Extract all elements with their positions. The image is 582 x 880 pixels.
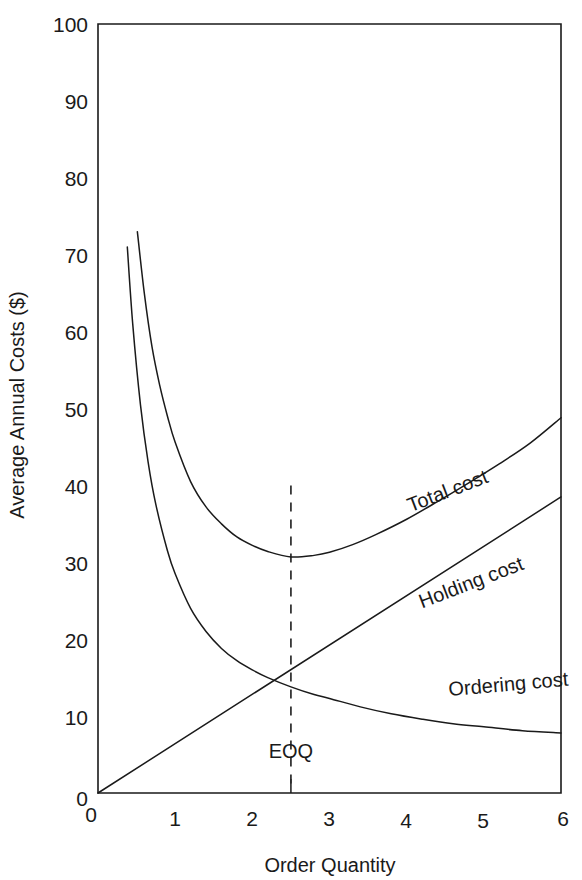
eoq-annotation-label: EOQ: [269, 740, 313, 762]
x-axis-title: Order Quantity: [264, 854, 395, 876]
series-label-holding-cost: Holding cost: [416, 552, 527, 612]
chart-canvas: 100 90 80 70 60 50 40 30 20 10 0 0 1 2 3…: [0, 0, 582, 880]
y-tick-label: 90: [65, 90, 88, 113]
series-ordering-cost-curve: [127, 247, 561, 733]
x-tick-label: 4: [400, 809, 412, 832]
series-label-total-cost: Total cost: [404, 465, 491, 516]
y-tick-label: 50: [65, 398, 88, 421]
y-axis-tick-labels: 100 90 80 70 60 50 40 30 20 10 0: [53, 13, 88, 810]
x-tick-label: 2: [246, 807, 258, 830]
series-total-cost-path: [137, 232, 561, 557]
x-tick-label: 6: [557, 807, 569, 830]
series-label-ordering-cost: Ordering cost: [448, 668, 570, 700]
x-tick-label: 0: [85, 803, 97, 826]
y-tick-label: 80: [65, 167, 88, 190]
x-tick-label: 1: [169, 807, 181, 830]
x-tick-label: 5: [477, 809, 489, 832]
y-tick-label: 40: [65, 475, 88, 498]
y-tick-label: 20: [65, 629, 88, 652]
y-tick-label: 10: [65, 706, 88, 729]
y-tick-label: 100: [53, 13, 88, 36]
series-holding-cost-line: [98, 497, 561, 793]
eoq-cost-chart: 100 90 80 70 60 50 40 30 20 10 0 0 1 2 3…: [0, 0, 582, 880]
y-axis-title: Average Annual Costs ($): [6, 291, 28, 519]
y-tick-label: 60: [65, 321, 88, 344]
x-tick-label: 3: [323, 807, 335, 830]
y-tick-label: 70: [65, 244, 88, 267]
x-axis-tick-labels: 0 1 2 3 4 5 6: [85, 803, 569, 832]
y-tick-label: 30: [65, 552, 88, 575]
